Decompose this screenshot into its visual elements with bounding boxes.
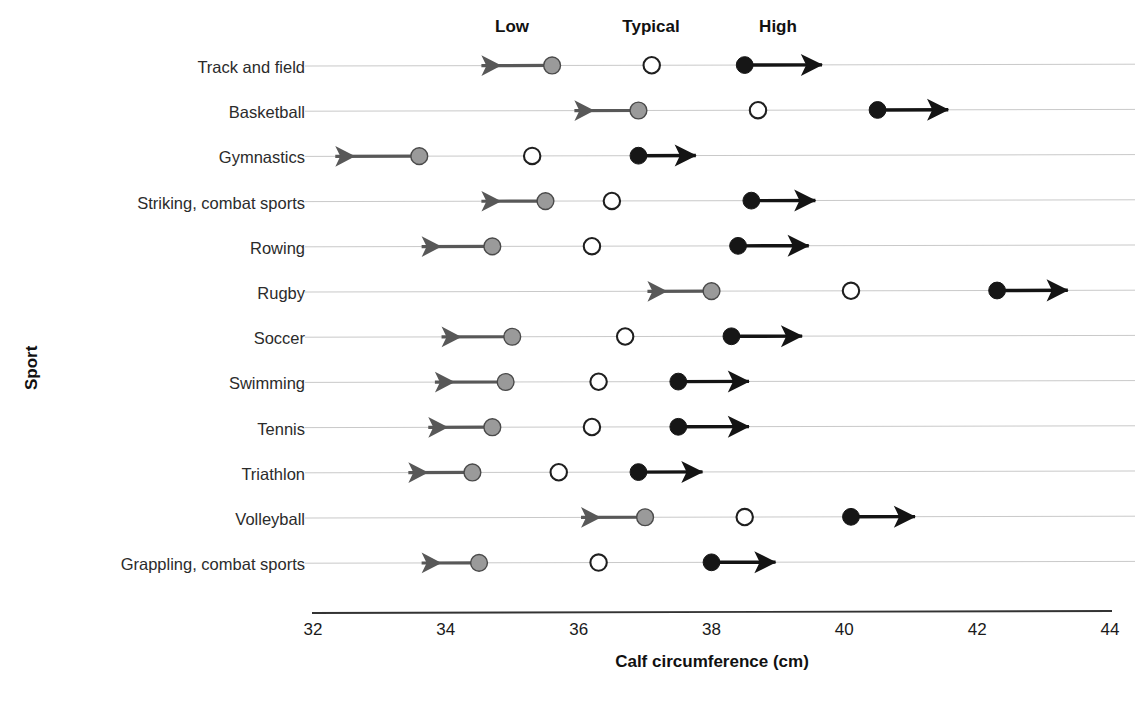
typical-marker <box>584 419 600 435</box>
low-marker <box>497 374 514 391</box>
low-marker <box>471 554 488 571</box>
chart-container: Low Typical High Sport Track and fieldBa… <box>0 0 1142 706</box>
x-axis-tick-label: 38 <box>702 620 721 640</box>
gridline <box>305 155 1135 157</box>
high-marker <box>703 554 720 571</box>
low-marker <box>637 509 654 526</box>
typical-marker <box>617 328 633 344</box>
y-axis-tick-label: Striking, combat sports <box>0 193 305 212</box>
high-marker <box>743 192 760 209</box>
gridlines <box>305 64 1135 563</box>
high-marker <box>670 418 687 435</box>
x-axis-tick-label: 44 <box>1101 620 1120 640</box>
y-axis-tick-label: Rowing <box>0 238 305 257</box>
high-marker <box>736 57 753 74</box>
low-marker <box>544 57 561 74</box>
typical-marker <box>843 283 859 299</box>
high-marker <box>723 328 740 345</box>
typical-marker <box>524 148 540 164</box>
y-axis-tick-label: Rugby <box>0 284 305 303</box>
high-marker <box>730 237 747 254</box>
typical-marker <box>590 374 606 390</box>
gridline <box>305 516 1135 518</box>
low-marker <box>504 328 521 345</box>
low-marker <box>411 148 428 165</box>
y-axis-tick-label: Triathlon <box>0 464 305 483</box>
typical-marker <box>604 193 620 209</box>
low-marker <box>630 102 647 119</box>
x-axis-tick-label: 36 <box>569 620 588 640</box>
y-axis-tick-label: Soccer <box>0 329 305 348</box>
data-marks <box>335 57 1068 572</box>
high-marker <box>869 102 886 119</box>
y-axis-tick-label: Track and field <box>0 58 305 77</box>
high-marker <box>670 373 687 390</box>
typical-marker <box>584 238 600 254</box>
gridline <box>305 200 1135 202</box>
gridline <box>305 109 1135 111</box>
y-axis-tick-label: Tennis <box>0 419 305 438</box>
x-axis-tick-label: 40 <box>835 620 854 640</box>
typical-marker <box>551 464 567 480</box>
low-marker <box>703 283 720 300</box>
gridline <box>305 335 1135 337</box>
high-marker <box>989 282 1006 299</box>
typical-marker <box>750 102 766 118</box>
x-axis-tick-label: 42 <box>968 620 987 640</box>
x-axis-title: Calf circumference (cm) <box>615 652 809 672</box>
typical-marker <box>737 509 753 525</box>
low-marker <box>484 419 501 436</box>
typical-marker <box>644 57 660 73</box>
x-axis-tick-label: 32 <box>304 620 323 640</box>
y-axis-tick-label: Basketball <box>0 103 305 122</box>
low-marker <box>464 464 481 481</box>
low-marker <box>484 238 501 255</box>
high-marker <box>843 508 860 525</box>
y-axis-tick-label: Grappling, combat sports <box>0 555 305 574</box>
y-axis-tick-label: Gymnastics <box>0 148 305 167</box>
x-axis-tick-label: 34 <box>436 620 455 640</box>
gridline <box>305 64 1135 66</box>
high-marker <box>630 147 647 164</box>
y-axis-tick-label: Swimming <box>0 374 305 393</box>
typical-marker <box>590 554 606 570</box>
x-axis-line <box>312 611 1112 613</box>
high-marker <box>630 464 647 481</box>
low-marker <box>537 193 554 210</box>
y-axis-tick-label: Volleyball <box>0 510 305 529</box>
